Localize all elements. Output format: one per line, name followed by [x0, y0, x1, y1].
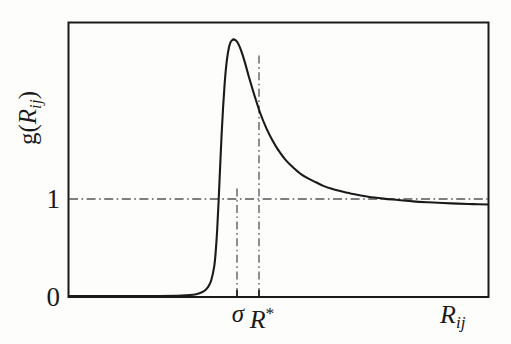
x-tick-rstar-superscript: * [266, 303, 275, 323]
distribution-curve [69, 39, 488, 296]
y-axis-label-open-paren: ( [14, 124, 41, 132]
y-tick-label-1: 1 [38, 184, 60, 214]
x-tick-label-rstar: R* [245, 299, 279, 334]
plot-canvas [0, 0, 511, 344]
y-tick-label-0: 0 [38, 282, 60, 312]
x-axis-label: Rij [440, 301, 500, 337]
radial-distribution-function-figure: 1 0 g(Rij) σ R* Rij [0, 0, 511, 344]
x-axis-label-var: R [440, 300, 456, 329]
x-tick-rstar-var: R [250, 305, 266, 334]
y-axis-label: g(Rij) [14, 58, 50, 178]
plot-frame [69, 23, 489, 298]
x-axis-label-subscript: ij [456, 313, 466, 332]
y-axis-label-var: R [14, 109, 41, 124]
y-axis-label-g: g [14, 132, 41, 145]
y-axis-label-subscript: ij [26, 99, 45, 109]
y-axis-label-close-paren: ) [14, 91, 41, 99]
